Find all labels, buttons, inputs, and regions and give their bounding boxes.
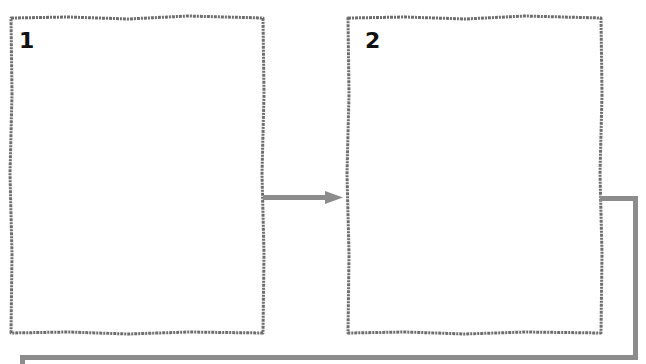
connector-segment-right bbox=[633, 196, 638, 360]
rough-border-icon bbox=[345, 14, 604, 336]
arrow-right-icon bbox=[263, 190, 345, 206]
panel-frame-1: 1 bbox=[8, 14, 266, 336]
frame-number-1: 1 bbox=[19, 30, 34, 52]
frame-number-2: 2 bbox=[365, 30, 380, 52]
connector-segment-bottom bbox=[20, 355, 638, 360]
rough-border-icon bbox=[8, 14, 266, 336]
connector-segment-left bbox=[20, 355, 25, 364]
arrow-connector-1-to-2 bbox=[263, 190, 345, 206]
panel-frame-2: 2 bbox=[345, 14, 604, 336]
